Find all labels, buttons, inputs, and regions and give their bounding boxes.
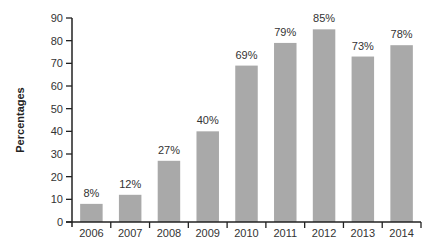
y-tick-label-30: 30 (51, 148, 63, 160)
bar-2010 (235, 66, 257, 222)
y-tick-label-20: 20 (51, 171, 63, 183)
bar-2009 (196, 131, 218, 222)
x-tick-label-2008: 2008 (157, 227, 181, 239)
bar-2011 (274, 43, 296, 222)
data-label-2008: 27% (158, 144, 180, 156)
x-tick-label-2013: 2013 (351, 227, 375, 239)
y-tick-label-80: 80 (51, 35, 63, 47)
data-label-2012: 85% (313, 12, 335, 24)
y-tick-label-10: 10 (51, 193, 63, 205)
bar-2014 (390, 45, 412, 222)
x-tick-label-2010: 2010 (234, 227, 258, 239)
y-tick-label-0: 0 (57, 216, 63, 228)
x-tick-label-2007: 2007 (118, 227, 142, 239)
y-tick-label-60: 60 (51, 80, 63, 92)
y-tick-label-70: 70 (51, 57, 63, 69)
x-tick-label-2009: 2009 (195, 227, 219, 239)
x-tick-label-2014: 2014 (389, 227, 413, 239)
bar-2008 (158, 161, 180, 222)
x-tick-label-2012: 2012 (312, 227, 336, 239)
x-tick-label-2011: 2011 (273, 227, 297, 239)
y-tick-label-40: 40 (51, 125, 63, 137)
data-label-2013: 73% (352, 40, 374, 52)
y-tick-label-90: 90 (51, 12, 63, 24)
data-label-2009: 40% (197, 114, 219, 126)
data-label-2006: 8% (83, 187, 99, 199)
data-label-2007: 12% (119, 178, 141, 190)
bar-2013 (352, 57, 374, 222)
data-label-2014: 78% (391, 28, 413, 40)
data-label-2010: 69% (235, 49, 257, 61)
bar-2007 (119, 195, 141, 222)
bar-chart: 8%200612%200727%200840%200969%201079%201… (0, 0, 442, 252)
bar-2006 (80, 204, 102, 222)
x-tick-label-2006: 2006 (79, 227, 103, 239)
data-label-2011: 79% (274, 26, 296, 38)
y-tick-label-50: 50 (51, 103, 63, 115)
bar-2012 (313, 29, 335, 222)
